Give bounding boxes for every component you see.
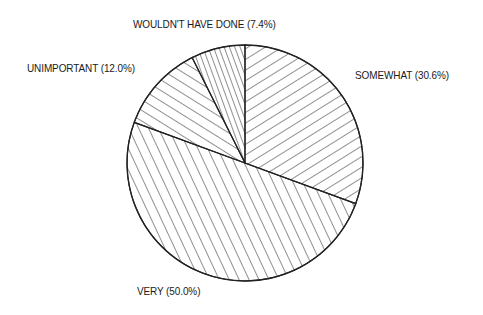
label-wouldnt-have-done: WOULDN'T HAVE DONE (7.4%)	[133, 18, 276, 30]
label-unimportant: UNIMPORTANT (12.0%)	[27, 62, 135, 74]
label-somewhat: SOMEWHAT (30.6%)	[355, 69, 449, 81]
pie-chart	[0, 0, 483, 315]
label-very: VERY (50.0%)	[137, 285, 200, 297]
pie-slices	[127, 45, 363, 281]
